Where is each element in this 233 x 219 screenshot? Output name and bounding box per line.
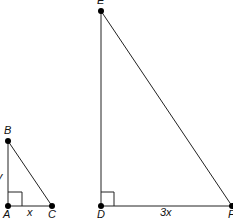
segment-bc: [8, 141, 52, 206]
label-c: C: [48, 208, 56, 219]
label-side-ab: y: [0, 170, 4, 182]
label-e: E: [97, 0, 105, 6]
label-side-df: 3x: [160, 206, 172, 218]
triangle-def: E D F 3x: [97, 0, 233, 219]
segment-ef: [101, 11, 232, 206]
point-b: [5, 138, 11, 144]
label-a: A: [2, 208, 10, 219]
label-b: B: [4, 124, 11, 136]
label-d: D: [97, 208, 105, 219]
point-e: [98, 8, 104, 14]
label-side-ac: x: [26, 206, 33, 218]
diagram-canvas: B A C y x E D F 3x: [0, 0, 233, 219]
label-f: F: [228, 208, 233, 219]
triangle-abc: B A C y x: [0, 124, 56, 219]
